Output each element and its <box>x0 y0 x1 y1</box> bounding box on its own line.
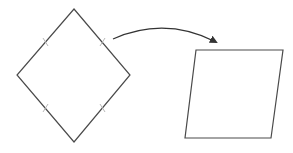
parallelogram <box>185 50 283 138</box>
diagram-canvas <box>0 0 293 153</box>
transform-arrow <box>113 28 216 42</box>
rhombus <box>17 9 130 142</box>
